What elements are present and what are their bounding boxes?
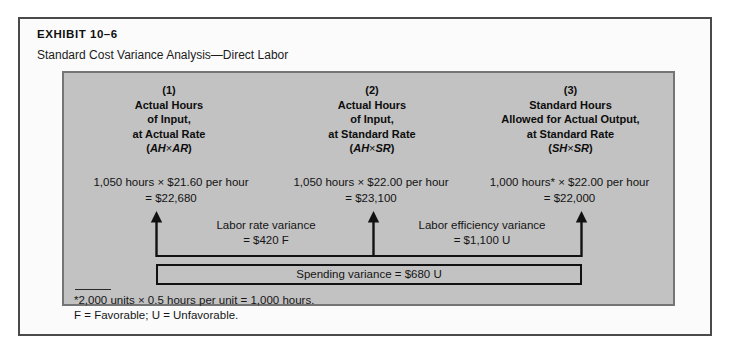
column-3-formula: (SH×SR) bbox=[464, 141, 677, 156]
column-2-line1: Actual Hours bbox=[264, 98, 480, 113]
calc-3-rate: $22.00 per hour bbox=[568, 176, 649, 188]
column-3-line2: Allowed for Actual Output, bbox=[464, 112, 677, 127]
arrow-up-icon bbox=[366, 211, 381, 257]
column-1-line3: at Actual Rate bbox=[64, 127, 274, 142]
footnote-hours: *2,000 units × 0.5 hours per unit = 1,00… bbox=[74, 293, 314, 308]
column-3-formula-left: SH bbox=[552, 142, 567, 154]
column-3-line1: Standard Hours bbox=[464, 98, 677, 113]
footnote-divider bbox=[75, 289, 111, 290]
calc-3-times: × bbox=[558, 176, 565, 188]
labor-rate-variance-label: Labor rate variance = $420 F bbox=[168, 218, 364, 248]
column-1-formula-close: ) bbox=[188, 142, 192, 154]
exhibit-label: EXHIBIT 10–6 bbox=[37, 28, 118, 40]
calc-3-result: = $22,000 bbox=[462, 190, 677, 206]
footnote-legend: F = Favorable; U = Unfavorable. bbox=[74, 308, 238, 323]
calculation-column-1: 1,050 hours × $21.60 per hour = $22,680 bbox=[64, 174, 278, 206]
column-1-number: (1) bbox=[64, 83, 274, 98]
labor-rate-variance-connector bbox=[156, 255, 374, 257]
column-2-formula-close: ) bbox=[391, 142, 395, 154]
variance-diagram-panel: (1) Actual Hours of Input, at Actual Rat… bbox=[62, 71, 675, 306]
column-header-2: (2) Actual Hours of Input, at Standard R… bbox=[264, 83, 480, 156]
column-3-formula-right: SR bbox=[574, 142, 589, 154]
calc-2-times: × bbox=[357, 176, 364, 188]
calculation-column-2: 1,050 hours × $22.00 per hour = $23,100 bbox=[262, 174, 480, 206]
column-2-line3: at Standard Rate bbox=[264, 127, 480, 142]
calc-1-result: = $22,680 bbox=[64, 190, 278, 206]
calc-1-quantity: 1,050 hours bbox=[93, 176, 154, 188]
column-2-line2: of Input, bbox=[264, 112, 480, 127]
labor-rate-variance-name: Labor rate variance bbox=[216, 219, 315, 231]
exhibit-subtitle: Standard Cost Variance Analysis—Direct L… bbox=[37, 48, 288, 62]
labor-efficiency-variance-connector bbox=[373, 255, 582, 257]
column-3-number: (3) bbox=[464, 83, 677, 98]
column-2-formula-left: AH bbox=[353, 142, 369, 154]
column-3-formula-close: ) bbox=[589, 142, 593, 154]
labor-efficiency-variance-name: Labor efficiency variance bbox=[419, 219, 546, 231]
column-1-line2: of Input, bbox=[64, 112, 274, 127]
labor-rate-variance-amount: = $420 F bbox=[168, 233, 364, 248]
column-1-formula: (AH×AR) bbox=[64, 141, 274, 156]
calc-1-times: × bbox=[157, 176, 164, 188]
column-2-formula: (AH×SR) bbox=[264, 141, 480, 156]
calc-3-quantity: 1,000 hours* bbox=[490, 176, 555, 188]
spending-variance-box: Spending variance = $680 U bbox=[156, 264, 582, 285]
column-2-number: (2) bbox=[264, 83, 480, 98]
column-header-1: (1) Actual Hours of Input, at Actual Rat… bbox=[64, 83, 274, 156]
calc-1-rate: $21.60 per hour bbox=[167, 176, 248, 188]
column-3-line3: at Standard Rate bbox=[464, 127, 677, 142]
column-1-formula-left: AH bbox=[150, 142, 166, 154]
column-header-3: (3) Standard Hours Allowed for Actual Ou… bbox=[464, 83, 677, 156]
arrow-up-icon bbox=[149, 211, 164, 257]
labor-efficiency-variance-amount: = $1,100 U bbox=[384, 233, 580, 248]
labor-efficiency-variance-label: Labor efficiency variance = $1,100 U bbox=[384, 218, 580, 248]
column-1-line1: Actual Hours bbox=[64, 98, 274, 113]
calc-2-result: = $23,100 bbox=[262, 190, 480, 206]
exhibit-frame: EXHIBIT 10–6 Standard Cost Variance Anal… bbox=[18, 17, 712, 336]
column-1-formula-right: AR bbox=[172, 142, 188, 154]
calc-2-rate: $22.00 per hour bbox=[367, 176, 448, 188]
calculation-column-3: 1,000 hours* × $22.00 per hour = $22,000 bbox=[462, 174, 677, 206]
column-2-formula-right: SR bbox=[376, 142, 391, 154]
calc-2-quantity: 1,050 hours bbox=[293, 176, 354, 188]
